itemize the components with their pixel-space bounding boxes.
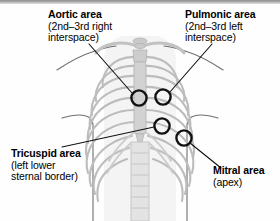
sternum (133, 50, 147, 142)
aortic-label-subline2: interspace) (48, 32, 112, 44)
aortic-label-title: Aortic area (48, 9, 112, 21)
tricuspid-label-title: Tricuspid area (11, 148, 81, 160)
vertebral-column (131, 142, 149, 221)
cervical-spine (133, 38, 147, 49)
mitral-label-title: Mitral area (213, 165, 264, 177)
mitral-label-subline1: (apex) (213, 177, 264, 189)
pulmonic-label-subline2: interspace) (185, 32, 255, 44)
pulmonic-label-title: Pulmonic area (185, 9, 255, 21)
mitral-area-label: Mitral area (apex) (213, 165, 264, 188)
leader-line-pulmonic (170, 44, 212, 92)
tricuspid-area-label: Tricuspid area (left lower sternal borde… (11, 148, 81, 183)
cardiac-auscultation-figure: Aortic area (2nd–3rd right interspace) P… (0, 0, 280, 221)
aortic-area-label: Aortic area (2nd–3rd right interspace) (48, 9, 112, 44)
pulmonic-area-label: Pulmonic area (2nd–3rd left interspace) (185, 9, 255, 44)
tricuspid-label-subline2: sternal border) (11, 171, 81, 183)
